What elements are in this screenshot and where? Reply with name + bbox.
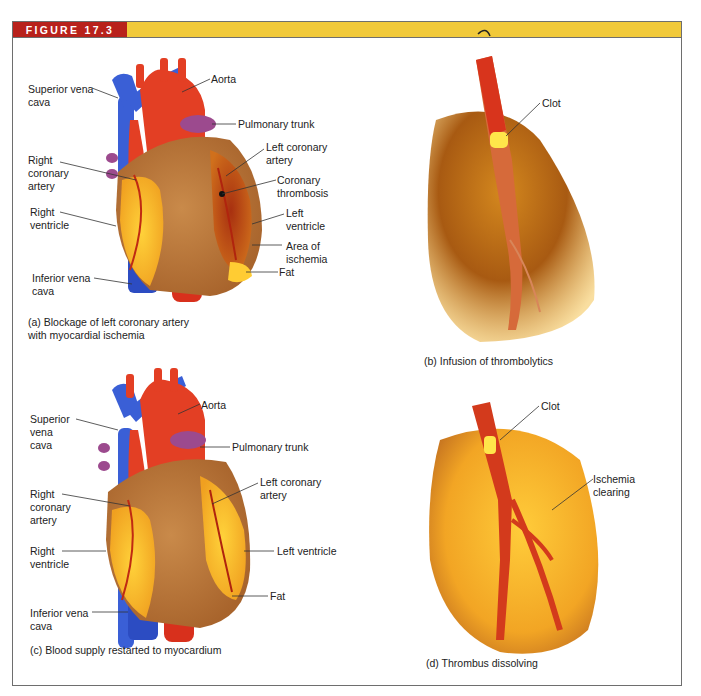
label-a-inferior-vena-cava: Inferior vena cava [32, 272, 90, 298]
heart-illustration-a [106, 58, 262, 302]
label-b-clot: Clot [542, 97, 561, 110]
label-c-right-coronary-artery: Right coronary artery [30, 488, 71, 527]
label-d-clot: Clot [541, 400, 560, 413]
label-a-area-of-ischemia: Area of ischemia [286, 240, 327, 266]
label-c-fat: Fat [270, 590, 285, 603]
label-c-right-ventricle: Right ventricle [30, 545, 69, 571]
caption-a: (a) Blockage of left coronary artery wit… [28, 316, 189, 342]
label-a-fat: Fat [279, 266, 294, 279]
label-c-left-ventricle: Left ventricle [277, 545, 337, 558]
label-c-left-coronary-artery: Left coronary artery [260, 476, 321, 502]
label-c-aorta: Aorta [201, 399, 226, 412]
label-c-pulmonary-trunk: Pulmonary trunk [232, 441, 308, 454]
myocardium-illustration-d [429, 402, 598, 654]
label-a-right-ventricle: Right ventricle [30, 206, 69, 232]
caption-d: (d) Thrombus dissolving [426, 657, 538, 670]
label-a-left-ventricle: Left ventricle [286, 207, 325, 233]
label-c-inferior-vena-cava: Inferior vena cava [30, 607, 88, 633]
label-a-aorta: Aorta [211, 73, 236, 86]
label-a-pulmonary-trunk: Pulmonary trunk [238, 118, 314, 131]
label-a-coronary-thrombosis: Coronary thrombosis [277, 174, 328, 200]
label-a-superior-vena-cava: Superior vena cava [28, 83, 93, 109]
label-c-superior-vena-cava: Superior vena cava [30, 413, 70, 452]
caption-c: (c) Blood supply restarted to myocardium [30, 644, 221, 657]
label-a-left-coronary-artery: Left coronary artery [266, 141, 327, 167]
label-a-right-coronary-artery: Right coronary artery [28, 154, 69, 193]
heart-illustration-c [98, 368, 250, 648]
myocardium-illustration-b [428, 30, 595, 342]
label-d-ischemia-clearing: Ischemia clearing [593, 473, 635, 499]
caption-b: (b) Infusion of thrombolytics [424, 355, 553, 368]
figure-illustrations [0, 0, 701, 696]
